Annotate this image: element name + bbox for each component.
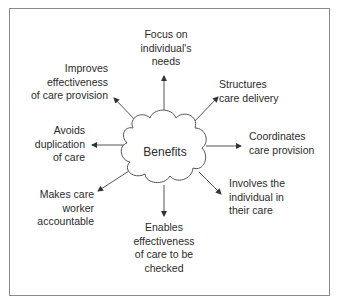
arrow-bottom-left bbox=[98, 169, 132, 191]
center-label: Benefits bbox=[130, 145, 200, 159]
node-top-left: Improves effectiveness of care provision bbox=[18, 62, 108, 103]
node-right: Coordinates care provision bbox=[249, 130, 314, 157]
node-bottom-left: Makes care worker accountable bbox=[20, 188, 94, 229]
arrow-bottom-right bbox=[199, 172, 221, 194]
node-bottom-right: Involves the individual in their care bbox=[229, 177, 285, 218]
node-bottom: Enables effectiveness of care to be chec… bbox=[118, 221, 210, 275]
node-top: Focus on individual's needs bbox=[126, 28, 206, 69]
node-top-right: Structures care delivery bbox=[219, 78, 279, 105]
node-left: Avoids duplication of care bbox=[20, 124, 85, 165]
arrow-top-right bbox=[192, 97, 218, 124]
